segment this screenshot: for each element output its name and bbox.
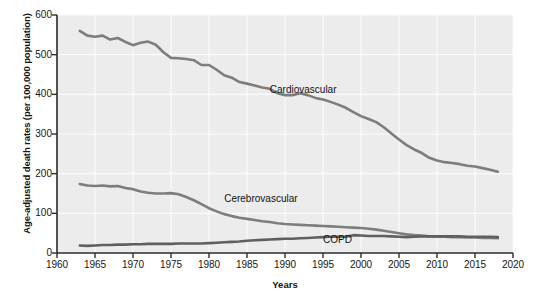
series-label-copd: COPD xyxy=(323,234,352,245)
chart-figure: Age-adjusted death rates (per 100,000 po… xyxy=(0,0,541,300)
x-axis-tick-labels: 1960196519701975198019851990199520002005… xyxy=(57,259,513,275)
y-tick-label: 600 xyxy=(16,9,52,20)
y-tick-label: 0 xyxy=(16,247,52,258)
y-tick-label: 200 xyxy=(16,168,52,179)
axis-lines xyxy=(57,15,513,253)
x-tick-label: 2020 xyxy=(491,259,535,270)
x-axis-label: Years xyxy=(57,279,513,290)
y-tick-label: 100 xyxy=(16,207,52,218)
plot-area: CardiovascularCerebrovascularCOPD xyxy=(57,15,513,253)
y-tick-label: 300 xyxy=(16,128,52,139)
y-tick-label: 500 xyxy=(16,49,52,60)
y-tick-label: 400 xyxy=(16,88,52,99)
y-axis-tick-labels: 0100200300400500600 xyxy=(12,15,52,253)
series-label-cardiovascular: Cardiovascular xyxy=(270,84,337,95)
series-label-cerebrovascular: Cerebrovascular xyxy=(224,193,297,204)
